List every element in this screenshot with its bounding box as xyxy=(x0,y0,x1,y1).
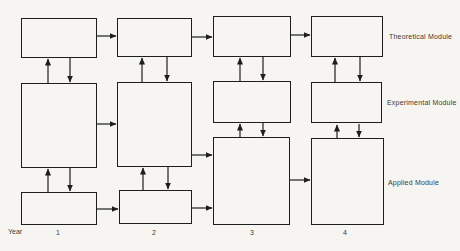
module-box-experimental-y2 xyxy=(117,82,192,167)
module-box-experimental-y1 xyxy=(21,83,97,168)
year-tick-3: 3 xyxy=(250,229,254,237)
module-box-theoretical-y3 xyxy=(213,16,291,57)
curriculum-module-flow-diagram: Theoretical ModuleExperimental ModuleApp… xyxy=(0,0,460,251)
module-box-experimental-y4 xyxy=(311,82,382,123)
year-axis-label: Year xyxy=(8,228,22,236)
module-label-experimental: Experimental Module xyxy=(387,99,457,107)
module-box-theoretical-y2 xyxy=(117,18,192,57)
module-box-applied-y4 xyxy=(311,138,384,225)
module-box-applied-y3 xyxy=(213,137,290,225)
year-tick-4: 4 xyxy=(343,229,347,237)
module-box-applied-y2 xyxy=(119,190,192,224)
module-box-applied-y1 xyxy=(21,192,97,225)
module-box-theoretical-y4 xyxy=(311,16,383,57)
module-label-applied: Applied Module xyxy=(388,179,439,187)
year-tick-1: 1 xyxy=(56,229,60,237)
module-box-experimental-y3 xyxy=(213,81,291,123)
year-tick-2: 2 xyxy=(152,229,156,237)
module-label-theoretical: Theoretical Module xyxy=(389,33,452,41)
module-box-theoretical-y1 xyxy=(21,18,97,58)
